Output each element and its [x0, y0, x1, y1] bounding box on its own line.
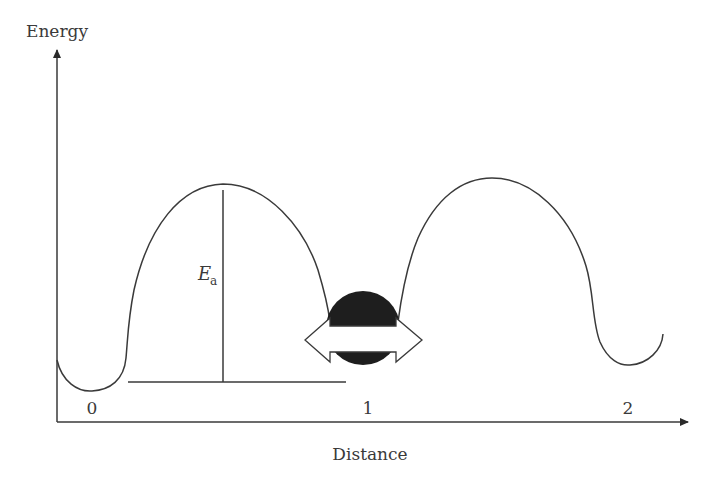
y-axis-label: Energy — [26, 21, 88, 41]
particle-icon — [305, 291, 422, 365]
activation-energy-subscript: a — [210, 274, 217, 288]
x-axis-label: Distance — [332, 444, 407, 464]
energy-distance-diagram: Energy Distance 0 1 2 E a — [0, 0, 715, 485]
tick-label-2: 2 — [623, 398, 634, 418]
energy-curve-left — [57, 184, 330, 391]
energy-curve-right — [398, 178, 663, 365]
tick-label-0: 0 — [87, 398, 98, 418]
tick-label-1: 1 — [363, 398, 374, 418]
